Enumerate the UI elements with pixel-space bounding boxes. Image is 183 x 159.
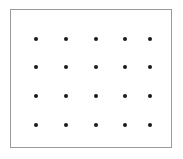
data-point	[64, 94, 68, 98]
data-point	[123, 37, 127, 41]
data-point	[148, 65, 152, 69]
figure-canvas	[0, 0, 183, 159]
data-point	[94, 94, 98, 98]
data-point	[34, 65, 38, 69]
data-point	[64, 123, 68, 127]
data-point	[123, 123, 127, 127]
data-point	[123, 94, 127, 98]
data-point	[34, 37, 38, 41]
data-point	[94, 123, 98, 127]
data-point	[148, 37, 152, 41]
data-point	[148, 123, 152, 127]
dot-grid	[0, 0, 183, 159]
data-point	[94, 37, 98, 41]
data-point	[34, 123, 38, 127]
data-point	[34, 94, 38, 98]
data-point	[64, 65, 68, 69]
data-point	[148, 94, 152, 98]
data-point	[123, 65, 127, 69]
data-point	[94, 65, 98, 69]
data-point	[64, 37, 68, 41]
